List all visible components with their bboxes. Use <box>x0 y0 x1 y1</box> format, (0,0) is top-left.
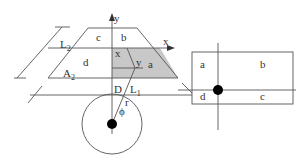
diagram-canvas: y x c b x d y a L2 A2 D L1 r ϕ a b c d <box>0 0 304 162</box>
right-slash-mark <box>182 83 192 93</box>
angle-label-phi: ϕ <box>119 105 125 117</box>
right-rectangle <box>192 52 293 104</box>
right-region-label-a: a <box>200 58 205 70</box>
shaded-region-a <box>112 48 178 78</box>
right-dot <box>213 85 223 95</box>
y-axis-label: y <box>114 12 120 24</box>
point-label-D: D <box>114 83 122 95</box>
point-label-y: y <box>136 56 142 68</box>
circle-center-dot <box>107 119 117 129</box>
right-region-label-c: c <box>260 90 265 102</box>
point-label-x: x <box>115 47 121 59</box>
region-label-b: b <box>121 31 127 43</box>
line-label-L1: L1 <box>130 83 141 98</box>
line-label-L2: L2 <box>60 38 71 53</box>
line-L2 <box>17 27 62 78</box>
region-label-a: a <box>148 58 153 70</box>
radius-label-r: r <box>125 96 129 108</box>
area-label-A2: A2 <box>63 67 75 82</box>
right-region-label-b: b <box>260 58 266 70</box>
region-label-d: d <box>83 56 89 68</box>
slash-mark-left <box>28 86 42 103</box>
region-label-c: c <box>96 31 101 43</box>
x-axis-label: x <box>163 35 169 47</box>
right-region-label-d: d <box>200 90 206 102</box>
